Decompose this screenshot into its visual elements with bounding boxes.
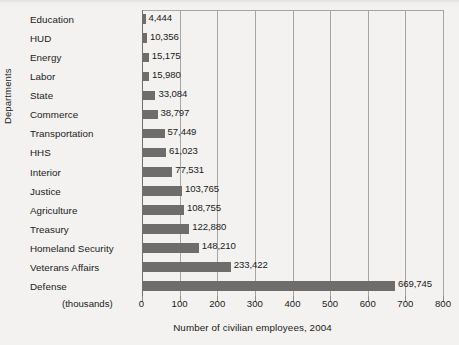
bar <box>143 110 158 120</box>
bar-row: 669,745 <box>142 277 443 296</box>
bar <box>143 167 172 177</box>
bar-row: 15,980 <box>142 67 443 86</box>
bar-row: 57,449 <box>142 124 443 143</box>
category-label: Transportation <box>30 124 94 143</box>
bar <box>143 14 146 24</box>
bar <box>143 262 231 272</box>
bar-value-label: 33,084 <box>158 88 187 99</box>
category-label: Treasury <box>30 220 69 239</box>
gridline-800 <box>443 10 444 296</box>
tick-label-800: 800 <box>423 298 459 309</box>
category-label: Agriculture <box>30 201 77 220</box>
category-label: Defense <box>30 277 67 296</box>
bar <box>143 72 149 82</box>
bar-row: 103,765 <box>142 182 443 201</box>
bar-rows: 4,44410,35615,17515,98033,08438,79757,44… <box>142 10 443 296</box>
bar-row: 61,023 <box>142 143 443 162</box>
bar <box>143 243 199 253</box>
bar-row: 33,084 <box>142 86 443 105</box>
bar-row: 233,422 <box>142 258 443 277</box>
category-label: Education <box>30 10 74 29</box>
bar-value-label: 108,755 <box>187 202 221 213</box>
category-label-column: EducationHUDEnergyLaborStateCommerceTran… <box>30 10 142 296</box>
bar-value-label: 103,765 <box>185 183 219 194</box>
x-axis-title-text: Number of civilian employees, 2004 <box>127 322 332 333</box>
chart-page: Departments EducationHUDEnergyLaborState… <box>0 0 459 345</box>
bar <box>143 148 166 158</box>
category-label: HUD <box>30 29 51 48</box>
bar-value-label: 233,422 <box>234 259 268 270</box>
bar-row: 38,797 <box>142 105 443 124</box>
bar-value-label: 77,531 <box>175 164 204 175</box>
x-axis-title: Number of civilian employees, 2004 <box>0 322 459 333</box>
category-label: Interior <box>30 163 61 182</box>
x-axis-ticks: 0100200300400500600700800 <box>142 296 443 312</box>
tick-label-200: 200 <box>197 298 237 309</box>
tick-label-700: 700 <box>385 298 425 309</box>
category-label: HHS <box>30 143 51 162</box>
tick-label-600: 600 <box>348 298 388 309</box>
bar-value-label: 4,444 <box>149 12 173 23</box>
tick-label-400: 400 <box>273 298 313 309</box>
bar-value-label: 57,449 <box>168 126 197 137</box>
bar-value-label: 148,210 <box>202 240 236 251</box>
bar-row: 122,880 <box>142 220 443 239</box>
tick-label-500: 500 <box>310 298 350 309</box>
x-axis-units-note: (thousands) <box>62 298 113 309</box>
category-label: Veterans Affairs <box>30 258 99 277</box>
category-label: State <box>30 86 53 105</box>
category-label: Energy <box>30 48 61 67</box>
bar <box>143 281 395 291</box>
bar-row: 4,444 <box>142 10 443 29</box>
category-label: Homeland Security <box>30 239 114 258</box>
bar-row: 15,175 <box>142 48 443 67</box>
bar <box>143 186 182 196</box>
category-label: Labor <box>30 67 55 86</box>
bar-value-label: 15,980 <box>152 69 181 80</box>
plot-area: 4,44410,35615,17515,98033,08438,79757,44… <box>142 10 443 296</box>
bar-value-label: 669,745 <box>398 278 432 289</box>
y-axis-title: Departments <box>2 24 16 124</box>
bar-value-label: 61,023 <box>169 145 198 156</box>
bar-row: 77,531 <box>142 163 443 182</box>
bar <box>143 129 165 139</box>
bar-value-label: 15,175 <box>152 50 181 61</box>
category-label: Commerce <box>30 105 78 124</box>
category-label: Justice <box>30 182 61 201</box>
tick-label-100: 100 <box>160 298 200 309</box>
bar <box>143 53 149 63</box>
bar-value-label: 10,356 <box>150 31 179 42</box>
bar-value-label: 38,797 <box>161 107 190 118</box>
bar-row: 148,210 <box>142 239 443 258</box>
tick-label-300: 300 <box>235 298 275 309</box>
bar-row: 108,755 <box>142 201 443 220</box>
bar <box>143 205 184 215</box>
bar <box>143 224 189 234</box>
bar-row: 10,356 <box>142 29 443 48</box>
bar-value-label: 122,880 <box>192 221 226 232</box>
bar <box>143 91 155 101</box>
bar <box>143 33 147 43</box>
